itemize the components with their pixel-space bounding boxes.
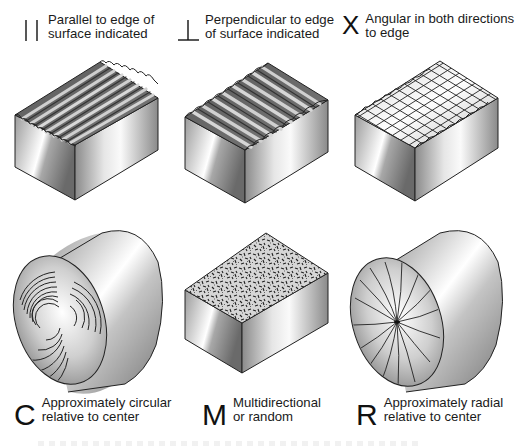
symbol-circular-icon: C bbox=[14, 400, 36, 430]
legend-angular: X Angular in both directions to edge bbox=[342, 12, 514, 40]
cylinder-radial-lay bbox=[335, 231, 503, 399]
cylinder-circular-lay bbox=[0, 231, 163, 397]
legend-perpendicular-text: Perpendicular to edge of surface indicat… bbox=[205, 13, 334, 41]
legend-radial-text: Approximately radial relative to center bbox=[384, 396, 503, 424]
symbol-angular-icon: X bbox=[342, 12, 359, 38]
legend-multidirectional-text: Multidirectional or random bbox=[233, 396, 321, 424]
symbol-multidirectional-icon: M bbox=[202, 400, 227, 430]
block-crosshatch bbox=[342, 55, 508, 201]
block-parallel-grooves bbox=[15, 61, 158, 200]
block-perpendicular-grooves bbox=[185, 63, 328, 203]
clipped-caption-fragment bbox=[38, 441, 418, 446]
symbol-radial-icon: R bbox=[356, 400, 378, 430]
legend-radial: R Approximately radial relative to cente… bbox=[356, 396, 503, 430]
legend-circular: C Approximately circular relative to cen… bbox=[14, 396, 171, 430]
legend-circular-text: Approximately circular relative to cente… bbox=[42, 396, 172, 424]
symbol-parallel-icon bbox=[26, 20, 37, 41]
legend-perpendicular: Perpendicular to edge of surface indicat… bbox=[205, 13, 334, 41]
legend-parallel: Parallel to edge of surface indicated bbox=[48, 13, 154, 41]
surface-lay-illustrations bbox=[0, 0, 518, 446]
symbol-perpendicular-icon bbox=[178, 20, 199, 40]
legend-multidirectional: M Multidirectional or random bbox=[202, 396, 321, 430]
legend-parallel-text: Parallel to edge of surface indicated bbox=[48, 13, 154, 41]
legend-angular-text: Angular in both directions to edge bbox=[365, 12, 514, 40]
block-random-texture bbox=[185, 233, 328, 373]
